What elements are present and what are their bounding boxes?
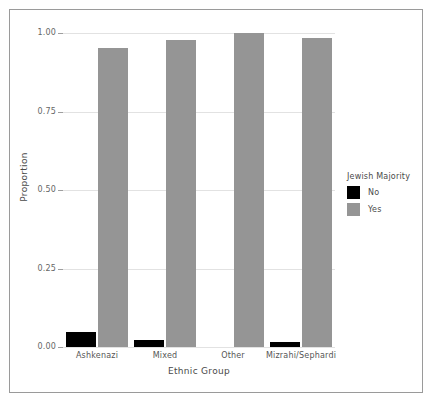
chart-figure: 0.000.250.500.751.00 AshkenaziMixedOther…	[0, 0, 434, 411]
bar-mixed-no	[134, 340, 164, 347]
y-axis-tick-mark	[58, 347, 63, 348]
bar-mizrahi-sephardi-no	[270, 342, 300, 347]
gridline	[63, 347, 335, 348]
x-axis-tick-label: Mizrahi/Sephardi	[251, 351, 351, 360]
legend-title: Jewish Majority	[347, 172, 427, 181]
legend-swatch-yes	[347, 203, 360, 216]
legend-label: Yes	[368, 205, 382, 214]
y-axis-tick-mark	[58, 112, 63, 113]
x-axis-title: Ethnic Group	[63, 366, 335, 376]
bar-mizrahi-sephardi-yes	[302, 38, 332, 347]
y-axis-tick-mark	[58, 33, 63, 34]
y-axis-tick-label: 0.00	[37, 342, 56, 351]
y-axis-tick-label: 0.75	[37, 107, 56, 116]
y-axis-tick-mark	[58, 190, 63, 191]
gridline	[63, 33, 335, 34]
plot-panel	[63, 33, 335, 347]
bar-ashkenazi-no	[66, 332, 96, 347]
y-axis-tick-label: 0.50	[37, 185, 56, 194]
y-axis-title: Proportion	[19, 127, 29, 227]
legend-item-no[interactable]: No	[347, 186, 427, 199]
legend-entries: NoYes	[347, 186, 427, 216]
y-axis-tick-label: 1.00	[37, 28, 56, 37]
legend: Jewish Majority NoYes	[347, 172, 427, 220]
legend-item-yes[interactable]: Yes	[347, 203, 427, 216]
bar-ashkenazi-yes	[98, 48, 128, 347]
legend-label: No	[368, 188, 379, 197]
bar-other-yes	[234, 33, 264, 347]
legend-swatch-no	[347, 186, 360, 199]
y-axis-tick-label: 0.25	[37, 264, 56, 273]
y-axis-tick-mark	[58, 269, 63, 270]
bar-mixed-yes	[166, 40, 196, 347]
